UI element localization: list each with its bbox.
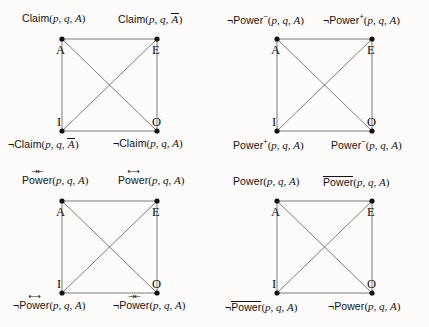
label-claim-O: ¬Claim(p, q, A)	[113, 138, 183, 150]
node-O	[154, 290, 159, 295]
vertex-letter-I: I	[57, 116, 61, 129]
vertex-letter-A: A	[271, 44, 280, 57]
label-power-pm-I: Power+(p, q, A)	[233, 138, 304, 151]
label-power-arrows-I: ¬←→Power(p, q, A)	[13, 300, 85, 312]
label-claim-A: Claim(p, q, A)	[22, 13, 85, 25]
node-A	[59, 36, 64, 41]
node-O	[154, 128, 159, 133]
label-power-pm-O: Power−(p, q, A)	[331, 138, 402, 151]
label-power-arrows-E: ←→Power(p, q, A)	[118, 175, 184, 187]
node-E	[369, 36, 374, 41]
accent-arrow-out: ←→	[19, 293, 49, 301]
node-I	[59, 128, 64, 133]
vertex-letter-E: E	[367, 206, 375, 219]
label-power-pm-A: ¬Power−(p, q, A)	[227, 13, 304, 26]
square-claim: A E I O Claim(p, q, A) Claim(p, q, A) ¬C…	[0, 0, 215, 163]
label-power-arrows-O: ¬→←Power(p, q, A)	[113, 300, 185, 312]
label-power-overline-I: ¬Power(p, q, A)	[225, 301, 297, 314]
vertex-letter-A: A	[56, 206, 65, 219]
label-power-overline-A: Power(p, q, A)	[233, 176, 299, 188]
node-I	[274, 128, 279, 133]
accent-arrow-in: →←	[119, 293, 149, 301]
label-claim-I: ¬Claim(p, q, A)	[8, 138, 79, 151]
accent-arrow-out: ←→	[118, 168, 148, 176]
node-I	[274, 290, 279, 295]
vertex-letter-O: O	[367, 116, 376, 129]
vertex-letter-E: E	[152, 44, 160, 57]
vertex-letter-O: O	[152, 278, 161, 291]
squares-of-opposition-figure: A E I O Claim(p, q, A) Claim(p, q, A) ¬C…	[0, 0, 429, 327]
vertex-letter-A: A	[271, 206, 280, 219]
vertex-letter-E: E	[367, 44, 375, 57]
node-O	[369, 290, 374, 295]
label-claim-E: Claim(p, q, A)	[118, 13, 182, 26]
square-power-arrows: A E I O →←Power(p, q, A) ←→Power(p, q, A…	[0, 163, 215, 327]
vertex-letter-I: I	[57, 278, 61, 291]
vertex-letter-O: O	[152, 116, 161, 129]
node-E	[154, 36, 159, 41]
label-power-overline-E: Power(p, q, A)	[323, 176, 389, 189]
vertex-letter-O: O	[367, 278, 376, 291]
vertex-letter-I: I	[272, 278, 276, 291]
node-I	[59, 290, 64, 295]
node-E	[154, 198, 159, 203]
square-power-overline: A E I O Power(p, q, A) Power(p, q, A) ¬P…	[215, 163, 429, 327]
vertex-letter-A: A	[56, 44, 65, 57]
label-power-pm-E: ¬Power+(p, q, A)	[323, 13, 400, 26]
vertex-letter-E: E	[152, 206, 160, 219]
accent-arrow-in: →←	[22, 168, 52, 176]
node-E	[369, 198, 374, 203]
square-power-pm: A E I O ¬Power−(p, q, A) ¬Power+(p, q, A…	[215, 0, 429, 163]
node-O	[369, 128, 374, 133]
node-A	[274, 198, 279, 203]
node-A	[274, 36, 279, 41]
node-A	[59, 198, 64, 203]
label-power-overline-O: ¬Power(p, q, A)	[328, 301, 400, 313]
label-power-arrows-A: →←Power(p, q, A)	[22, 175, 88, 187]
vertex-letter-I: I	[272, 116, 276, 129]
